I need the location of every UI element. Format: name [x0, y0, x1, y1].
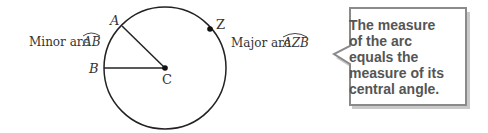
minor-arc-label: Minor arc: [29, 35, 90, 49]
callout-line: central angle.: [349, 81, 459, 97]
major-arc-label: Major arc: [231, 36, 291, 50]
callout-text: The measure of the arc equals the measur…: [349, 17, 459, 97]
label-a: A: [109, 13, 119, 28]
callout-line: of the arc: [349, 33, 459, 49]
callout-line: measure of its: [349, 65, 459, 81]
label-z: Z: [216, 17, 225, 32]
callout-line: The measure: [349, 17, 459, 33]
major-arc-name: AZB: [282, 36, 309, 50]
minor-arc-name: AB: [82, 35, 101, 49]
center-point-c: [162, 65, 168, 71]
radius-ca: [122, 26, 165, 68]
callout-line: equals the: [349, 49, 459, 65]
label-c: C: [162, 72, 172, 87]
label-b: B: [88, 61, 99, 76]
point-z: [207, 26, 213, 32]
